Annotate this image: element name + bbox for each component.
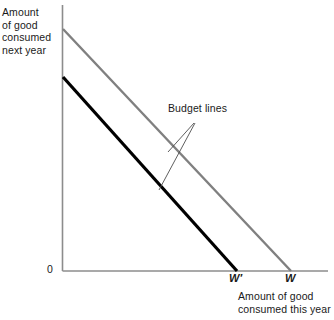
leader-line-inner: [159, 123, 195, 190]
budget-lines-annotation: Budget lines: [168, 102, 258, 115]
leader-line-outer: [168, 123, 194, 152]
outer-budget-line: [63, 29, 291, 271]
x-tick-label-w-prime: W′: [229, 272, 242, 284]
origin-label: 0: [47, 263, 53, 276]
budget-lines-figure: Amount of good consumed next year Budget…: [0, 0, 334, 320]
y-axis-label: Amount of good consumed next year: [2, 6, 58, 56]
x-axis-label: Amount of good consumed this year: [238, 290, 334, 315]
x-tick-label-w: W: [285, 272, 295, 284]
